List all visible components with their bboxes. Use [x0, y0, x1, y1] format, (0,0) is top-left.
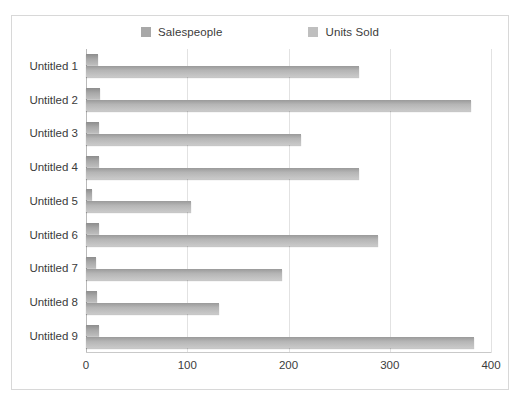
x-axis-tick-labels: 0100200300400 [86, 359, 491, 375]
legend-swatch-icon [308, 27, 318, 37]
bar-units-sold[interactable] [86, 303, 219, 314]
bar-salespeople[interactable] [86, 122, 99, 133]
legend-entry[interactable]: Units Sold [308, 26, 378, 38]
bar-salespeople[interactable] [86, 189, 92, 200]
bar-groups [86, 49, 491, 353]
bar-units-sold[interactable] [86, 66, 359, 77]
y-axis-label: Untitled 4 [12, 154, 86, 180]
bar-group [86, 255, 491, 281]
bar-salespeople[interactable] [86, 257, 96, 268]
x-axis-tick-label: 100 [178, 359, 197, 371]
bar-salespeople[interactable] [86, 54, 98, 65]
y-axis-label: Untitled 5 [12, 188, 86, 214]
x-axis-line [86, 352, 491, 353]
chart-legend: SalespeopleUnits Sold [12, 21, 508, 43]
x-axis-tick-label: 400 [481, 359, 500, 371]
bar-units-sold[interactable] [86, 168, 359, 179]
bar-units-sold[interactable] [86, 337, 474, 348]
y-axis-label: Untitled 8 [12, 289, 86, 315]
bar-group [86, 222, 491, 248]
y-axis-label: Untitled 7 [12, 255, 86, 281]
y-axis-label: Untitled 3 [12, 120, 86, 146]
legend-label: Units Sold [325, 26, 378, 38]
bar-units-sold[interactable] [86, 269, 282, 280]
bar-units-sold[interactable] [86, 235, 378, 246]
bar-group [86, 154, 491, 180]
bar-salespeople[interactable] [86, 223, 99, 234]
bar-group [86, 323, 491, 349]
legend-swatch-icon [141, 27, 151, 37]
bar-salespeople[interactable] [86, 291, 97, 302]
x-axis-tick-label: 200 [279, 359, 298, 371]
bar-group [86, 120, 491, 146]
bar-units-sold[interactable] [86, 134, 301, 145]
bar-group [86, 53, 491, 79]
y-axis-label: Untitled 2 [12, 87, 86, 113]
x-axis-tick-label: 300 [380, 359, 399, 371]
y-axis-category-labels: Untitled 1Untitled 2Untitled 3Untitled 4… [12, 49, 86, 353]
bar-salespeople[interactable] [86, 156, 99, 167]
legend-label: Salespeople [158, 26, 222, 38]
bar-group [86, 289, 491, 315]
y-axis-label: Untitled 1 [12, 53, 86, 79]
bar-salespeople[interactable] [86, 88, 100, 99]
chart-frame: SalespeopleUnits Sold Untitled 1Untitled… [11, 15, 509, 390]
bar-group [86, 87, 491, 113]
bar-units-sold[interactable] [86, 100, 471, 111]
legend-entry[interactable]: Salespeople [141, 26, 222, 38]
gridline [491, 49, 492, 353]
bar-units-sold[interactable] [86, 201, 191, 212]
x-axis-tick-label: 0 [83, 359, 89, 371]
plot-area [86, 49, 491, 353]
bar-group [86, 188, 491, 214]
y-axis-label: Untitled 6 [12, 222, 86, 248]
bar-salespeople[interactable] [86, 325, 99, 336]
y-axis-label: Untitled 9 [12, 323, 86, 349]
